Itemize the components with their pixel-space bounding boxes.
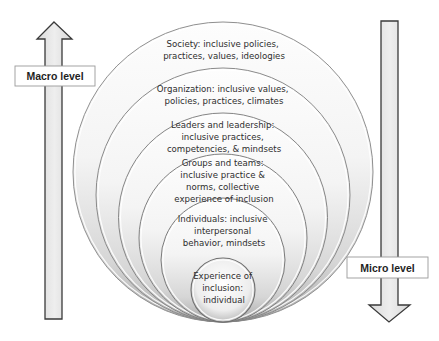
inclusion-diagram: Society: inclusive policies, practices, … [0, 0, 439, 341]
micro-level-box: Micro level [347, 257, 428, 278]
leaders-label: Leaders and leadership: inclusive practi… [167, 120, 282, 154]
macro-level-label: Macro level [26, 70, 83, 82]
micro-level-label: Micro level [360, 262, 414, 274]
macro-level-box: Macro level [15, 66, 95, 86]
